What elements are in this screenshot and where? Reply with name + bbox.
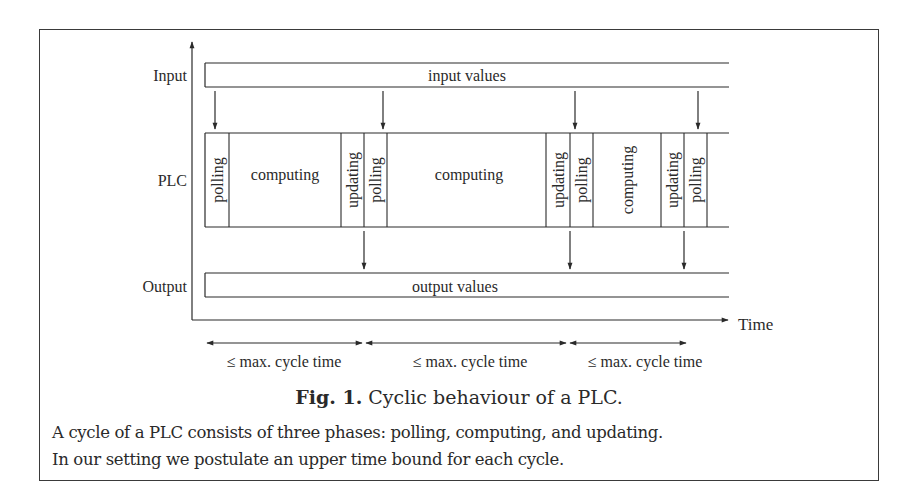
cycle-label-3: ≤ max. cycle time (588, 353, 703, 371)
input-values-label: input values (428, 67, 506, 85)
phase-polling-3: polling (573, 157, 591, 202)
phase-updating-2: updating (550, 152, 568, 208)
row-label-output: Output (143, 278, 188, 296)
figure-number: Fig. 1. (295, 386, 362, 408)
figure-title: Cyclic behaviour of a PLC. (362, 386, 623, 408)
phase-computing-2: computing (435, 166, 503, 184)
phase-polling-2: polling (367, 157, 385, 202)
row-label-plc: PLC (158, 172, 187, 189)
output-values-bar: output values (205, 273, 729, 297)
phase-labels: computing computing polling updating pol… (209, 146, 705, 214)
phase-updating-3: updating (664, 152, 682, 208)
phase-polling-4: polling (687, 157, 705, 202)
phase-updating-1: updating (344, 152, 362, 208)
plc-cycle-diagram: Time Input PLC Output input values outpu… (0, 0, 914, 496)
phase-computing-3: computing (619, 146, 637, 214)
phase-polling-1: polling (209, 157, 227, 202)
figure-description-line-1: A cycle of a PLC consists of three phase… (52, 423, 663, 442)
figure-caption: Fig. 1. Cyclic behaviour of a PLC. (39, 386, 879, 408)
input-to-plc-arrows (215, 91, 698, 129)
cycle-label-1: ≤ max. cycle time (227, 353, 342, 371)
cycle-label-2: ≤ max. cycle time (413, 353, 528, 371)
time-axis-label: Time (738, 315, 773, 334)
plc-bar: computing computing polling updating pol… (205, 133, 729, 227)
figure-description-line-2: In our setting we postulate an upper tim… (52, 450, 564, 469)
cycle-time-labels: ≤ max. cycle time ≤ max. cycle time ≤ ma… (227, 353, 703, 371)
phase-computing-1: computing (251, 166, 319, 184)
output-values-label: output values (412, 278, 498, 296)
input-values-bar: input values (205, 63, 729, 87)
row-label-input: Input (153, 67, 187, 85)
plc-to-output-arrows (364, 231, 684, 269)
